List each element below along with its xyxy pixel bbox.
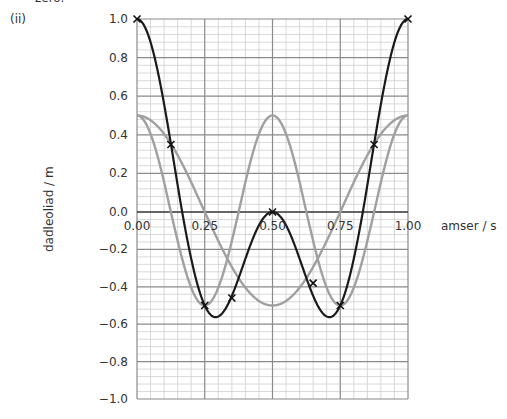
y-tick-label: −0.4 — [99, 280, 128, 294]
x-tick-label: 1.00 — [395, 219, 422, 233]
x-tick-label: 0.75 — [327, 219, 354, 233]
y-tick-label: −0.8 — [99, 355, 128, 369]
y-tick-label: 0.4 — [109, 128, 128, 142]
chart: 1.00.80.60.40.20.0−0.2−0.4−0.6−0.8−1.00.… — [0, 0, 507, 419]
y-axis-title: dadleoliad / m — [42, 166, 56, 252]
y-tick-label: 0.6 — [109, 89, 128, 103]
y-tick-label: −1.0 — [99, 392, 128, 406]
y-tick-label: 1.0 — [109, 12, 128, 26]
x-axis-title: amser / s — [441, 219, 497, 233]
y-tick-label: 0.8 — [109, 51, 128, 65]
x-tick-label: 0.50 — [259, 219, 286, 233]
y-tick-label: 0.2 — [109, 166, 128, 180]
y-tick-label: −0.2 — [99, 242, 128, 256]
x-tick-label: 0.00 — [124, 219, 151, 233]
x-tick-label: 0.25 — [191, 219, 218, 233]
y-tick-label: 0.0 — [109, 205, 128, 219]
y-tick-label: −0.6 — [99, 317, 128, 331]
